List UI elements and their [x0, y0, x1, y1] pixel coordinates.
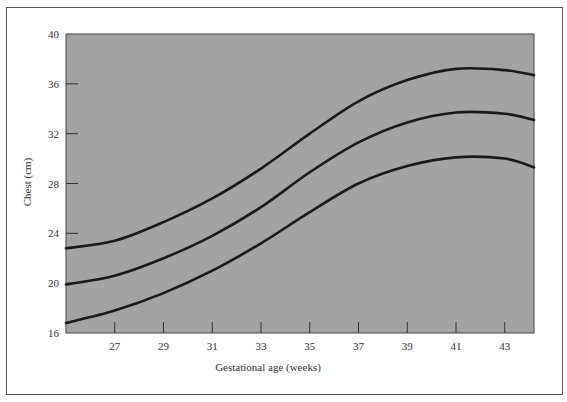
x-tick-label: 37	[353, 340, 365, 352]
x-tick-label: 35	[304, 340, 316, 352]
x-tick-label: 31	[207, 340, 218, 352]
y-tick-label: 40	[48, 28, 60, 40]
y-tick-label: 20	[48, 277, 60, 289]
plot-area	[66, 34, 534, 333]
y-tick-label: 32	[48, 128, 59, 140]
chest-growth-chart: 16202428323640 272931333537394143 Gestat…	[0, 0, 567, 402]
y-tick-label: 28	[48, 178, 60, 190]
x-tick-label: 29	[158, 340, 170, 352]
x-tick-label: 33	[256, 340, 268, 352]
y-tick-label: 16	[48, 327, 60, 339]
x-axis-label: Gestational age (weeks)	[215, 361, 321, 374]
y-axis-label: Chest (cm)	[21, 157, 34, 206]
x-tick-label: 43	[499, 340, 511, 352]
y-tick-label: 24	[48, 227, 60, 239]
y-tick-label: 36	[48, 78, 60, 90]
x-tick-label: 27	[109, 340, 121, 352]
x-tick-label: 39	[402, 340, 414, 352]
x-tick-label: 41	[451, 340, 462, 352]
